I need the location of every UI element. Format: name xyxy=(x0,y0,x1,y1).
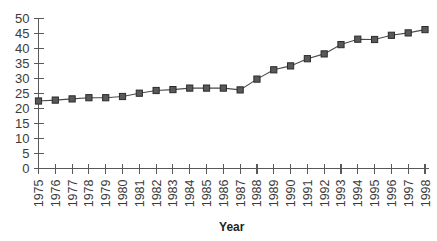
data-point-marker xyxy=(187,85,193,91)
x-tick-label: 1988 xyxy=(250,179,264,207)
data-point-marker xyxy=(119,93,125,99)
x-tick-label: 1978 xyxy=(82,179,96,207)
x-tick-label: 1989 xyxy=(267,179,281,207)
x-tick-label: 1984 xyxy=(183,179,197,207)
x-tick-label: 1976 xyxy=(49,179,63,207)
data-point-marker xyxy=(136,90,142,96)
data-point-marker xyxy=(388,32,394,38)
x-tick-label: 1992 xyxy=(318,179,332,207)
y-tick-label: 25 xyxy=(15,86,29,101)
x-tick-label: 1980 xyxy=(116,179,130,207)
x-tick-label: 1996 xyxy=(385,179,399,207)
x-tick-label: 1993 xyxy=(334,179,348,207)
data-point-marker xyxy=(35,98,41,104)
x-tick-label: 1987 xyxy=(234,179,248,207)
data-point-marker xyxy=(254,76,260,82)
x-tick-label: 1979 xyxy=(99,179,113,207)
y-tick-label: 35 xyxy=(15,56,29,71)
data-point-marker xyxy=(321,51,327,57)
x-tick-label: 1986 xyxy=(217,179,231,207)
y-tick-label: 50 xyxy=(15,11,29,26)
line-chart: 0510152025303540455019751976197719781979… xyxy=(0,0,437,241)
x-tick-label: 1994 xyxy=(351,179,365,207)
y-tick-label: 30 xyxy=(15,71,29,86)
x-tick-label: 1982 xyxy=(150,179,164,207)
x-tick-label: 1975 xyxy=(32,179,46,207)
data-point-marker xyxy=(287,63,293,69)
data-point-marker xyxy=(371,36,377,42)
data-point-marker xyxy=(203,85,209,91)
data-point-marker xyxy=(355,36,361,42)
data-point-marker xyxy=(69,96,75,102)
data-point-marker xyxy=(153,87,159,93)
y-tick-label: 45 xyxy=(15,26,29,41)
y-tick-label: 20 xyxy=(15,101,29,116)
x-tick-label: 1985 xyxy=(200,179,214,207)
x-tick-label: 1995 xyxy=(368,179,382,207)
x-axis-title: Year xyxy=(219,220,245,234)
data-point-marker xyxy=(220,85,226,91)
x-tick-label: 1990 xyxy=(284,179,298,207)
x-tick-label: 1997 xyxy=(402,179,416,207)
y-tick-label: 40 xyxy=(15,41,29,56)
data-point-marker xyxy=(422,27,428,33)
x-tick-label: 1991 xyxy=(301,179,315,207)
x-tick-label: 1998 xyxy=(419,179,433,207)
y-tick-label: 5 xyxy=(22,146,29,161)
data-point-marker xyxy=(405,30,411,36)
data-series-line xyxy=(39,30,426,101)
data-point-marker xyxy=(271,67,277,73)
x-tick-label: 1977 xyxy=(66,179,80,207)
data-point-marker xyxy=(52,97,58,103)
data-point-marker xyxy=(170,87,176,93)
chart-container: 0510152025303540455019751976197719781979… xyxy=(0,0,437,241)
y-tick-label: 15 xyxy=(15,116,29,131)
data-point-marker xyxy=(237,87,243,93)
data-point-marker xyxy=(338,42,344,48)
data-point-marker xyxy=(103,95,109,101)
y-tick-label: 0 xyxy=(22,161,29,176)
x-tick-label: 1981 xyxy=(133,179,147,207)
y-tick-label: 10 xyxy=(15,131,29,146)
x-tick-label: 1983 xyxy=(166,179,180,207)
data-point-marker xyxy=(304,56,310,62)
data-point-marker xyxy=(86,95,92,101)
